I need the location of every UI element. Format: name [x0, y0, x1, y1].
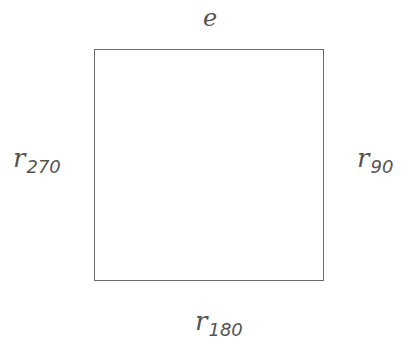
- label-bottom-main: r: [195, 306, 207, 336]
- label-left-main: r: [13, 143, 25, 173]
- label-top-identity: e: [203, 6, 217, 30]
- label-right-sub: 90: [370, 156, 393, 177]
- square: [94, 49, 324, 281]
- label-left-sub: 270: [26, 156, 60, 177]
- label-right-rotation-90: r90: [357, 145, 393, 176]
- label-right-main: r: [357, 143, 369, 173]
- label-bottom-sub: 180: [208, 319, 242, 340]
- label-top-main: e: [203, 4, 217, 32]
- label-left-rotation-270: r270: [13, 145, 61, 176]
- label-bottom-rotation-180: r180: [195, 308, 243, 339]
